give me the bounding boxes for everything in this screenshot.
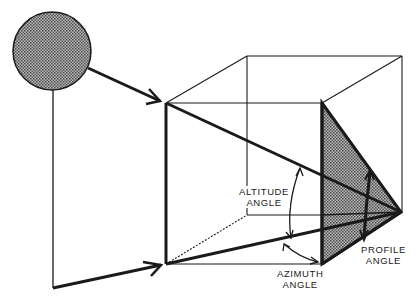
altitude-label-line1: ALTITUDE [239, 186, 289, 197]
azimuth-angle-arc [283, 244, 318, 264]
profile-plane-shading [322, 103, 401, 264]
azimuth-angle-label: AZIMUTH ANGLE [276, 268, 324, 290]
ground-projection-arrow [53, 262, 161, 288]
sun-icon [13, 12, 91, 90]
profile-label-line2: ANGLE [361, 255, 406, 266]
azimuth-label-line1: AZIMUTH [277, 268, 323, 279]
azimuth-label-line2: ANGLE [277, 279, 323, 290]
profile-label-line1: PROFILE [361, 244, 406, 255]
altitude-angle-label: ALTITUDE ANGLE [238, 186, 290, 208]
box-heavy-edges [166, 103, 322, 264]
solar-angle-diagram [0, 0, 416, 302]
profile-angle-label: PROFILE ANGLE [360, 244, 407, 266]
sun-ray-arrow [88, 68, 160, 104]
altitude-label-line2: ANGLE [239, 197, 289, 208]
